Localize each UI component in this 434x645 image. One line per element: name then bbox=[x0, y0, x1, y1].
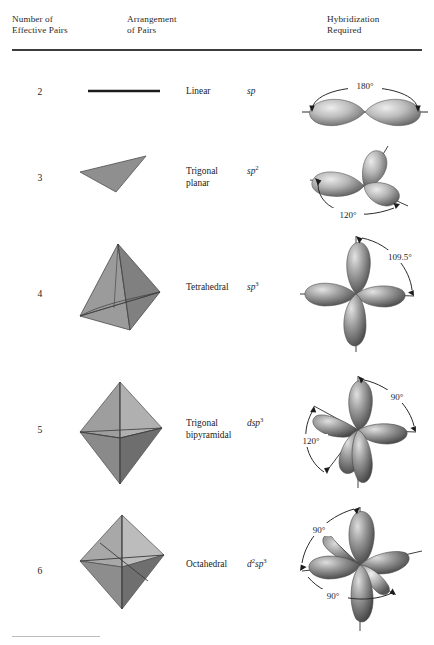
arrangement-name-line1: Trigonal bbox=[186, 418, 244, 430]
column-header-line2: Required bbox=[327, 25, 379, 36]
hybridization-superscript: 2 bbox=[255, 164, 258, 171]
column-header-arrangement-of-pairs: Arrangement of Pairs bbox=[127, 14, 177, 37]
angle-label-upper: 90° bbox=[313, 525, 326, 535]
arrangement-name-line1: Linear bbox=[186, 86, 244, 98]
arrangement-name: Trigonal planar bbox=[186, 166, 244, 189]
effective-pairs-count: 3 bbox=[28, 172, 52, 183]
column-header-hybridization-required: Hybridization Required bbox=[327, 14, 379, 37]
footer-divider-rule bbox=[12, 636, 100, 637]
sp2-orbital-diagram: 120° bbox=[296, 138, 434, 230]
column-header-number-effective-pairs: Number of Effective Pairs bbox=[12, 14, 68, 37]
angle-label-equatorial: 120° bbox=[302, 436, 320, 446]
angle-label: 120° bbox=[339, 210, 357, 220]
angle-label: 180° bbox=[356, 81, 374, 91]
table-row-octahedral: 6 Octahedral d2sp3 bbox=[0, 495, 434, 640]
linear-shape bbox=[72, 84, 176, 98]
arrangement-name: Trigonal bipyramidal bbox=[186, 418, 244, 441]
effective-pairs-count: 5 bbox=[28, 424, 52, 435]
column-header-line2: Effective Pairs bbox=[12, 25, 68, 36]
effective-pairs-count: 2 bbox=[28, 86, 52, 97]
octahedron-shape bbox=[72, 509, 176, 617]
angle-label-lower: 90° bbox=[327, 591, 340, 601]
tetrahedron-shape bbox=[72, 238, 176, 342]
table-row-linear: 2 Linear sp bbox=[0, 60, 434, 138]
column-header-line1: Hybridization bbox=[327, 14, 379, 25]
angle-label-axial: 90° bbox=[391, 392, 404, 402]
arrangement-name-line2: planar bbox=[186, 178, 244, 190]
table-row-trigonal-bipyramidal: 5 Trigonal bipyramidal dsp3 bbox=[0, 370, 434, 495]
column-header-line1: Arrangement bbox=[127, 14, 177, 25]
table-row-tetrahedral: 4 Tetrahedral sp3 bbox=[0, 230, 434, 370]
hybridization-superscript: 3 bbox=[260, 416, 263, 423]
arrangement-name-line2: bipyramidal bbox=[186, 430, 244, 442]
arrangement-name-line1: Tetrahedral bbox=[186, 282, 244, 294]
hybridization-label: sp2 bbox=[247, 166, 291, 176]
angle-label: 109.5° bbox=[388, 252, 412, 262]
dsp3-orbital-diagram: 90° 120° bbox=[296, 370, 434, 495]
arrangement-name: Octahedral bbox=[186, 559, 244, 571]
hybridization-label: dsp3 bbox=[247, 418, 291, 428]
trigonal-planar-shape bbox=[72, 146, 176, 202]
effective-pairs-count: 6 bbox=[28, 565, 52, 576]
sp-orbital-diagram: 180° bbox=[296, 60, 434, 138]
d2sp3-orbital-diagram: 90° 90° bbox=[296, 495, 434, 640]
hybridization-label: sp3 bbox=[247, 282, 291, 292]
hybridization-label: d2sp3 bbox=[247, 559, 291, 569]
hybridization-base: sp bbox=[252, 418, 260, 428]
hybridization-label: sp bbox=[247, 86, 291, 96]
table-row-trigonal-planar: 3 Trigonal planar sp2 bbox=[0, 138, 434, 230]
hybridization-superscript: 3 bbox=[263, 557, 266, 564]
column-header-line1: Number of bbox=[12, 14, 68, 25]
arrangement-name: Tetrahedral bbox=[186, 282, 244, 294]
table-header: Number of Effective Pairs Arrangement of… bbox=[0, 0, 434, 52]
sp3-orbital-diagram: 109.5° bbox=[296, 230, 434, 360]
hybridization-table: Number of Effective Pairs Arrangement of… bbox=[0, 0, 434, 645]
header-divider-rule bbox=[12, 49, 422, 51]
arrangement-name-line1: Octahedral bbox=[186, 559, 244, 571]
arrangement-name: Linear bbox=[186, 86, 244, 98]
trigonal-bipyramid-shape bbox=[72, 376, 176, 490]
effective-pairs-count: 4 bbox=[28, 288, 52, 299]
column-header-line2: of Pairs bbox=[127, 25, 177, 36]
hybridization-superscript: 3 bbox=[255, 280, 258, 287]
hybridization-base: sp bbox=[247, 86, 255, 96]
arrangement-name-line1: Trigonal bbox=[186, 166, 244, 178]
